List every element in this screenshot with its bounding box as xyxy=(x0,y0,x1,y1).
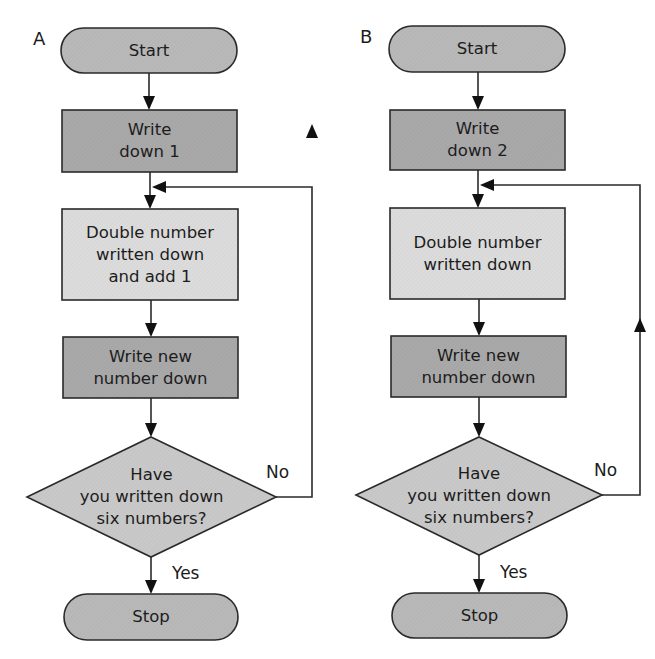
start-text-b: Start xyxy=(457,38,497,60)
step3-line1-a: Write new xyxy=(109,346,192,368)
no-label-b: No xyxy=(594,460,617,480)
arrow-up-icon xyxy=(634,318,646,332)
decision-line1-a: Have xyxy=(130,464,172,486)
step1-label-a: Write down 1 xyxy=(62,110,237,172)
step2-line1-b: Double number xyxy=(413,232,541,254)
decision-line3-a: six numbers? xyxy=(97,508,207,530)
step2-line1-a: Double number xyxy=(86,222,214,244)
arrow-down-icon xyxy=(472,96,484,110)
decision-line3-b: six numbers? xyxy=(424,507,534,529)
start-label-b: Start xyxy=(389,26,565,72)
arrow-down-icon xyxy=(473,579,485,593)
flowchart-canvas xyxy=(0,0,655,659)
step3-line1-b: Write new xyxy=(437,345,520,367)
step2-label-b: Double number written down xyxy=(390,208,565,299)
start-text-a: Start xyxy=(129,40,169,62)
arrow-down-icon xyxy=(145,423,157,437)
arrow-left-icon xyxy=(152,181,166,193)
arrow-down-icon xyxy=(145,323,157,337)
decision-line2-a: you written down xyxy=(80,486,224,508)
step3-label-b: Write new number down xyxy=(391,336,566,397)
decision-label-a: Have you written down six numbers? xyxy=(27,437,276,557)
start-label-a: Start xyxy=(61,28,237,73)
yes-label-b: Yes xyxy=(500,562,527,582)
stop-text-b: Stop xyxy=(461,605,499,627)
yes-label-a: Yes xyxy=(172,563,199,583)
step3-label-a: Write new number down xyxy=(63,337,238,398)
arrow-left-icon xyxy=(480,179,494,191)
no-label-a: No xyxy=(266,462,289,482)
step1-line2-a: down 1 xyxy=(119,141,179,163)
panel-label-b: B xyxy=(360,26,372,47)
arrow-down-icon xyxy=(144,195,156,209)
stop-label-a: Stop xyxy=(64,594,238,640)
step2-line3-a: and add 1 xyxy=(108,266,191,288)
stop-label-b: Stop xyxy=(392,593,567,638)
step1-line2-b: down 2 xyxy=(447,140,507,162)
step3-line2-a: number down xyxy=(93,368,207,390)
arrow-down-icon xyxy=(143,96,155,110)
panel-label-a: A xyxy=(33,28,45,49)
step2-line2-b: written down xyxy=(423,254,531,276)
arrow-down-icon xyxy=(145,580,157,594)
decision-label-b: Have you written down six numbers? xyxy=(356,437,602,555)
step2-line2-a: written down xyxy=(96,244,204,266)
arrow-up-icon xyxy=(306,124,318,138)
step1-line1-b: Write xyxy=(456,118,500,140)
step1-label-b: Write down 2 xyxy=(390,110,565,170)
step3-line2-b: number down xyxy=(421,367,535,389)
arrow-down-icon xyxy=(472,194,484,208)
step1-line1-a: Write xyxy=(128,119,172,141)
decision-line2-b: you written down xyxy=(407,485,551,507)
decision-line1-b: Have xyxy=(458,463,500,485)
stop-text-a: Stop xyxy=(132,606,170,628)
arrow-down-icon xyxy=(473,423,485,437)
arrow-down-icon xyxy=(473,322,485,336)
step2-label-a: Double number written down and add 1 xyxy=(62,209,238,300)
